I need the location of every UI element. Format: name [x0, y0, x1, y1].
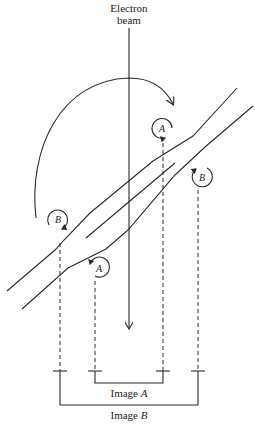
- rotation-marker-b-left: B: [48, 210, 68, 229]
- tube-upper-edge: [7, 88, 237, 291]
- tilt-rotation-arrow: [35, 78, 173, 218]
- beam-label-line1: Electron: [110, 2, 148, 14]
- marker-label: A: [95, 263, 103, 274]
- marker-label: B: [199, 172, 205, 183]
- electron-beam-diagram: Electron beam A B B A Image A Im: [0, 0, 255, 426]
- tube-lower-edge: [22, 106, 253, 309]
- marker-label: A: [158, 123, 166, 134]
- rotation-marker-a-lower: A: [90, 257, 110, 277]
- image-a-bracket: [95, 371, 163, 383]
- image-b-label: Image B: [111, 409, 148, 421]
- marker-label: B: [55, 214, 61, 225]
- rotation-marker-b-right: B: [192, 168, 212, 187]
- image-a-label: Image A: [111, 387, 148, 399]
- rotation-marker-a-upper: A: [152, 118, 172, 138]
- beam-label-line2: beam: [117, 14, 141, 26]
